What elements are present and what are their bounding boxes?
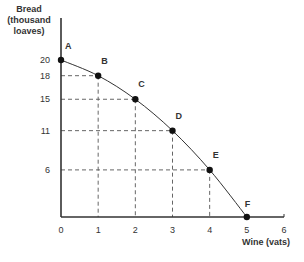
x-tick-label: 1 bbox=[96, 225, 101, 235]
y-tick-label: 15 bbox=[40, 94, 50, 104]
data-point-d bbox=[169, 127, 175, 133]
y-tick-label: 11 bbox=[41, 126, 50, 136]
data-point-e bbox=[206, 167, 212, 173]
y-tick-label: 20 bbox=[40, 55, 50, 65]
x-tick-label: 2 bbox=[133, 225, 138, 235]
point-label-b: B bbox=[101, 56, 108, 66]
point-label-e: E bbox=[213, 150, 219, 160]
x-tick-label: 4 bbox=[207, 225, 212, 235]
point-label-f: F bbox=[245, 199, 251, 209]
x-tick-label: 6 bbox=[281, 225, 286, 235]
data-point-c bbox=[132, 96, 138, 102]
point-label-d: D bbox=[176, 111, 183, 121]
y-tick-label: 18 bbox=[40, 71, 50, 81]
ppf-chart: 0123456611151820 ABCDEF bbox=[0, 0, 304, 262]
x-tick-label: 0 bbox=[58, 225, 63, 235]
y-tick-label: 6 bbox=[45, 165, 50, 175]
point-label-a: A bbox=[65, 41, 72, 51]
data-point-b bbox=[95, 73, 101, 79]
data-point-f bbox=[244, 214, 250, 220]
x-tick-label: 3 bbox=[170, 225, 175, 235]
point-label-c: C bbox=[138, 79, 145, 89]
x-tick-label: 5 bbox=[244, 225, 249, 235]
data-point-a bbox=[58, 57, 64, 63]
ppf-curve bbox=[61, 60, 247, 217]
